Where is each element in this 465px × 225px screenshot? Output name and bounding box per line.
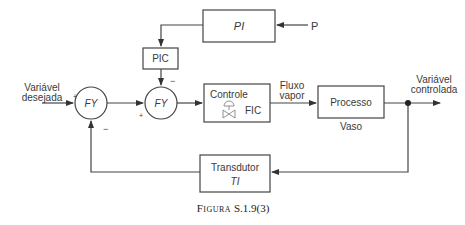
- pressure-label: P: [311, 20, 318, 32]
- fy2-label: FY: [155, 98, 169, 109]
- diagram-canvas: PI P PIC FY FY Variável desejada + − − +…: [0, 0, 465, 225]
- block-diagram: PI P PIC FY FY Variável desejada + − − +…: [0, 0, 465, 225]
- pic-label: PIC: [152, 53, 169, 64]
- flow-label-line2: vapor: [279, 90, 305, 101]
- output-label-line2: controlada: [411, 84, 458, 95]
- feedback-to-transdutor-arrow: [272, 103, 408, 172]
- fy2-minus-sign: −: [170, 76, 175, 86]
- fy1-minus-sign: −: [103, 124, 108, 134]
- ti-label: TI: [231, 176, 240, 187]
- figure-caption: Figura S.1.9(3): [197, 202, 270, 215]
- pi-to-pic-arrow: [161, 25, 203, 46]
- fic-label: FIC: [245, 105, 261, 116]
- fy2-plus-sign: +: [139, 112, 143, 119]
- processo-label: Processo: [330, 97, 372, 108]
- valve-icon: [223, 101, 235, 118]
- vaso-label: Vaso: [340, 121, 362, 132]
- fy1-plus-sign: +: [73, 93, 77, 100]
- transdutor-label: Transdutor: [211, 162, 260, 173]
- fy1-label: FY: [85, 98, 99, 109]
- junction-dot: [405, 100, 411, 106]
- input-label-line2: desejada: [22, 92, 63, 103]
- controle-label: Controle: [210, 89, 248, 100]
- pi-label: PI: [234, 20, 244, 32]
